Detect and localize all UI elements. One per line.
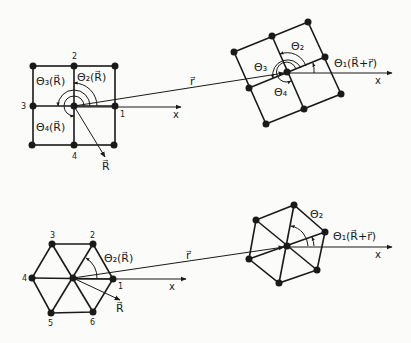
node-label-3: 3 <box>21 102 26 111</box>
node-label-2: 2 <box>72 52 77 61</box>
hex-node-label-4: 4 <box>22 274 27 283</box>
theta2-label: Θ₂(R⃗) <box>77 70 106 84</box>
R-vector <box>74 106 105 157</box>
theta1-label-hex-right: Θ₁(R⃗+r⃗) <box>333 229 376 243</box>
R-vector-hex-label: R⃗ <box>116 301 124 315</box>
x-axis-label: x <box>173 109 179 120</box>
theta2-label-right: Θ₂ <box>291 40 304 53</box>
node-label-1: 1 <box>120 110 125 119</box>
lattice-diagram: x R⃗ 1 2 3 4 Θ₂(R⃗) Θ₃(R⃗) Θ₄(R⃗) r⃗ x Θ… <box>0 0 411 343</box>
x-axis-label-hex-right: x <box>375 249 381 260</box>
r-vector-top-label: r⃗ <box>190 75 196 88</box>
theta2-label-hex-right: Θ₂ <box>310 208 323 221</box>
hex-node-label-2: 2 <box>90 231 95 240</box>
theta3-label-right: Θ₃ <box>254 61 267 74</box>
hex-node-label-5: 5 <box>48 319 53 328</box>
theta4-label: Θ₄(R⃗) <box>36 120 65 134</box>
theta2-label-hex: Θ₂(R⃗) <box>104 251 133 265</box>
r-vector-bottom-label: r⃗ <box>186 249 192 262</box>
theta4-label-right: Θ₄ <box>274 86 288 99</box>
x-axis-label-right: x <box>375 75 381 86</box>
theta1-label-right: Θ₁(R⃗+r⃗) <box>334 56 377 70</box>
x-axis-label-hex-left: x <box>169 281 175 292</box>
hex-node-label-1: 1 <box>118 282 123 291</box>
hex-node-label-3: 3 <box>50 231 55 240</box>
theta3-label: Θ₃(R⃗) <box>36 74 65 88</box>
angle-arcs-right <box>273 53 314 82</box>
R-vector-label: R⃗ <box>102 159 110 173</box>
hex-node-label-6: 6 <box>90 318 95 327</box>
node-label-4: 4 <box>72 152 77 161</box>
